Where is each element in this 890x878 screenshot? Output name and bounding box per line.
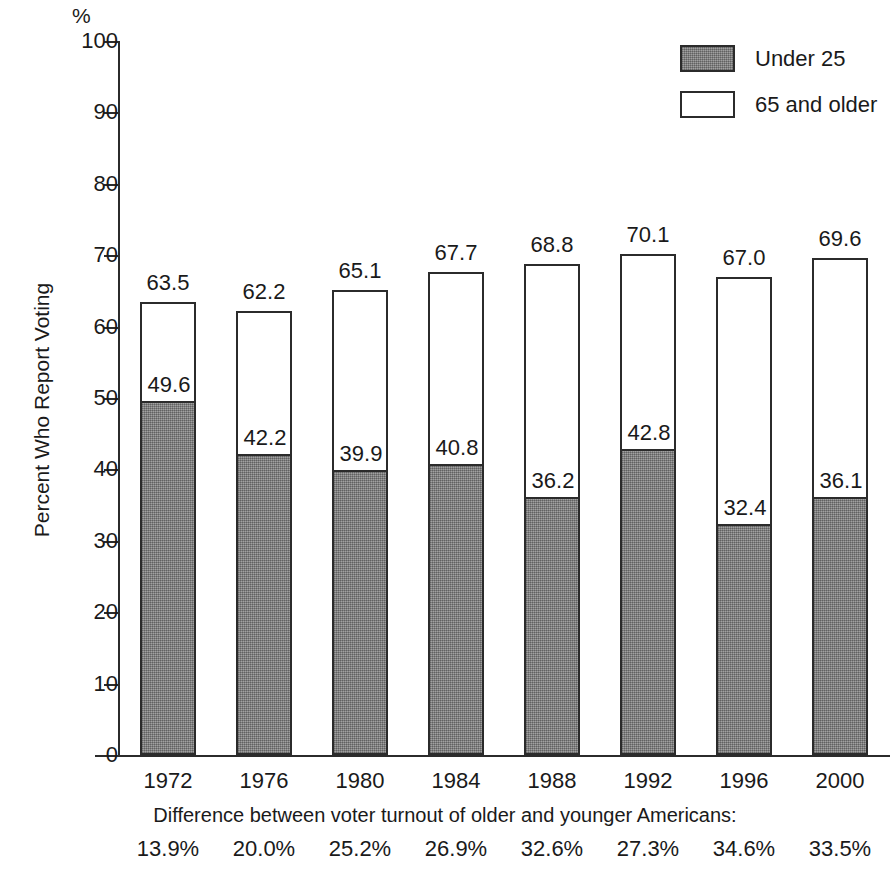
legend-label: 65 and older (755, 91, 877, 118)
difference-label-1980: 25.2% (312, 836, 408, 862)
x-axis-label-1988: 1988 (504, 768, 600, 794)
bar-value-label-older: 62.2 (221, 281, 307, 303)
bar-value-label-older: 65.1 (317, 260, 403, 282)
legend-swatch-icon (680, 45, 735, 72)
bar-value-label-older: 69.6 (797, 228, 883, 250)
bar-value-label-under25: 36.2 (525, 470, 581, 492)
bar-value-label-under25: 49.6 (141, 374, 197, 396)
bar-value-label-under25: 40.8 (429, 437, 485, 459)
bar-value-label-older: 67.7 (413, 242, 499, 264)
y-tick-label: 10 (56, 673, 118, 695)
y-tick-label: 70 (56, 244, 118, 266)
difference-label-2000: 33.5% (792, 836, 888, 862)
bar-value-label-under25: 36.1 (813, 470, 869, 492)
x-axis-label-1996: 1996 (696, 768, 792, 794)
x-axis-label-1992: 1992 (600, 768, 696, 794)
bar-value-label-under25: 32.4 (717, 497, 773, 519)
y-axis-title: Percent Who Report Voting (30, 200, 54, 620)
bar-value-label-older: 70.1 (605, 224, 691, 246)
bar-segment-under25[interactable] (812, 497, 868, 755)
bar-segment-under25[interactable] (620, 449, 676, 755)
difference-label-1988: 32.6% (504, 836, 600, 862)
difference-label-1972: 13.9% (120, 836, 216, 862)
x-axis-label-1976: 1976 (216, 768, 312, 794)
x-axis-label-2000: 2000 (792, 768, 888, 794)
chart-caption: Difference between voter turnout of olde… (0, 804, 890, 827)
bar-value-label-under25: 42.8 (621, 422, 677, 444)
y-axis-line (118, 41, 120, 756)
bar-value-label-older: 67.0 (701, 247, 787, 269)
y-tick-label: 80 (56, 173, 118, 195)
x-axis-line (95, 755, 890, 757)
x-axis-label-1984: 1984 (408, 768, 504, 794)
y-tick-label: 50 (56, 387, 118, 409)
y-tick-label: 30 (56, 530, 118, 552)
bar-segment-under25[interactable] (716, 524, 772, 755)
bar-segment-under25[interactable] (428, 464, 484, 755)
y-tick-label: 40 (56, 458, 118, 480)
bar-segment-under25[interactable] (524, 497, 580, 755)
legend-label: Under 25 (755, 45, 846, 72)
difference-label-1984: 26.9% (408, 836, 504, 862)
bar-value-label-older: 63.5 (125, 272, 211, 294)
y-tick-label: 90 (56, 101, 118, 123)
x-axis-label-1972: 1972 (120, 768, 216, 794)
y-tick-label: 20 (56, 601, 118, 623)
x-axis-label-1980: 1980 (312, 768, 408, 794)
bar-segment-under25[interactable] (236, 454, 292, 755)
y-tick-label: 0 (56, 744, 118, 766)
bar-value-label-under25: 42.2 (237, 427, 293, 449)
bar-segment-under25[interactable] (332, 470, 388, 755)
y-axis-unit-label: % (72, 4, 91, 28)
y-tick-label: 60 (56, 316, 118, 338)
difference-label-1996: 34.6% (696, 836, 792, 862)
bar-value-label-under25: 39.9 (333, 443, 389, 465)
difference-label-1992: 27.3% (600, 836, 696, 862)
bar-segment-under25[interactable] (140, 401, 196, 755)
y-tick-label: 100 (56, 30, 118, 52)
stacked-bar-chart: % 0102030405060708090100 Percent Who Rep… (0, 0, 890, 878)
difference-label-1976: 20.0% (216, 836, 312, 862)
legend-swatch-icon (680, 91, 735, 118)
bar-value-label-older: 68.8 (509, 234, 595, 256)
